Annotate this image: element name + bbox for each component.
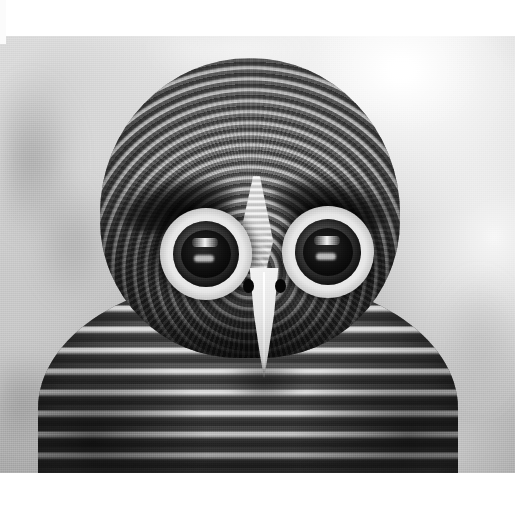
screenshot-root bbox=[0, 0, 532, 505]
owl-photograph bbox=[0, 36, 515, 473]
photo-vignette bbox=[0, 36, 515, 473]
margin-right bbox=[515, 0, 532, 505]
margin-bottom bbox=[0, 473, 532, 505]
margin-top bbox=[0, 0, 532, 36]
margin-top-left-notch bbox=[0, 0, 6, 44]
